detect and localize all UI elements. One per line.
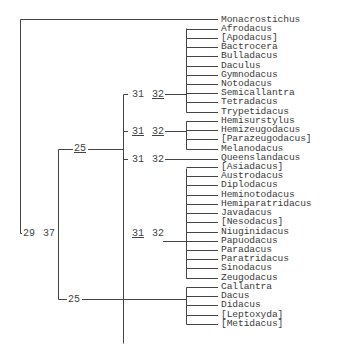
root-support-a: 29 (22, 229, 36, 239)
sub4-support-a: 31 (131, 229, 145, 239)
taxon-label: [Nesodacus] (221, 217, 283, 226)
clade-support-25-upper: 25 (73, 144, 87, 154)
sub3-support-a: 31 (131, 155, 145, 165)
sub1-support-a: 31 (131, 90, 145, 100)
taxon-label: [Parazeugodacus] (221, 134, 312, 143)
taxon-label: [Metidacus] (221, 319, 283, 328)
clade-support-25-lower: 25 (67, 295, 81, 305)
sub4-support-b: 32 (151, 229, 165, 239)
sub2-support-a: 31 (131, 127, 145, 137)
taxon-label: Didacus (221, 300, 261, 309)
sub1-support-b: 32 (151, 90, 165, 100)
sub2-support-b: 32 (151, 127, 165, 137)
sub3-support-b: 32 (151, 155, 165, 165)
tree-lines (0, 0, 337, 347)
root-support-b: 37 (42, 229, 56, 239)
